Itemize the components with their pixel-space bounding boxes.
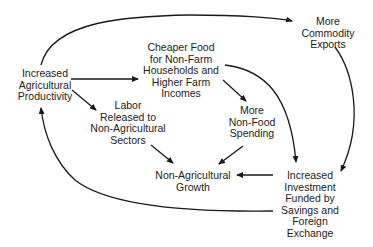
node-more-commodity-exports: More Commodity Exports xyxy=(292,16,364,51)
edge-cheaper-food-to-spending xyxy=(223,80,246,101)
node-non-agricultural-growth: Non-Agricultural Growth xyxy=(148,170,238,193)
node-increased-investment: Increased Investment Funded by Savings a… xyxy=(276,170,344,239)
edge-exports-to-investment xyxy=(335,47,354,171)
node-increased-agricultural-productivity: Increased Agricultural Productivity xyxy=(6,68,84,103)
edge-spending-to-growth xyxy=(219,146,243,164)
node-more-non-food-spending: More Non-Food Spending xyxy=(222,105,282,140)
edge-labor-to-growth xyxy=(151,145,173,163)
node-cheaper-food: Cheaper Food for Non-Farm Households and… xyxy=(138,42,224,100)
node-labor-released: Labor Released to Non-Agricultural Secto… xyxy=(84,100,172,146)
diagram-canvas: Increased Agricultural Productivity Chea… xyxy=(0,0,373,247)
